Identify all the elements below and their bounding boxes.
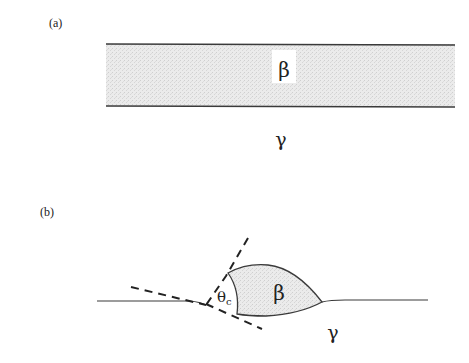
layer-bottom-boundary bbox=[106, 106, 455, 107]
gamma-phase-label-b: γ bbox=[327, 321, 338, 343]
diagram-canvas: (a) β γ (b) θc β γ bbox=[0, 0, 469, 363]
panel-b: (b) θc β γ bbox=[40, 205, 428, 343]
beta-phase-label-a: β bbox=[278, 58, 290, 82]
panel-a: (a) β γ bbox=[49, 16, 455, 150]
contact-angle-label: θc bbox=[217, 288, 232, 307]
grain-boundary-right bbox=[322, 300, 428, 302]
panel-a-label: (a) bbox=[49, 16, 62, 30]
tangent-line-left bbox=[131, 287, 206, 305]
layer-top-boundary bbox=[106, 44, 455, 45]
gamma-phase-label-a: γ bbox=[275, 128, 286, 150]
beta-phase-label-b: β bbox=[273, 281, 285, 305]
panel-b-label: (b) bbox=[40, 205, 54, 219]
